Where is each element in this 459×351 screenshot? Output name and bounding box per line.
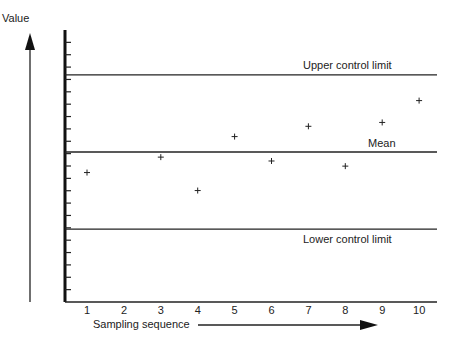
y-axis-label: Value [2,12,29,24]
x-tick-label: 6 [269,304,275,316]
x-axis-label: Sampling sequence [93,318,190,330]
x-tick-label: 4 [195,304,201,316]
mean-label: Mean [368,137,396,149]
control-chart [0,0,459,351]
x-tick-label: 3 [158,304,164,316]
x-arrow-head-icon [360,320,378,330]
lcl-label: Lower control limit [303,233,392,245]
value-arrow-head-icon [25,33,35,50]
x-tick-label: 1 [84,304,90,316]
x-tick-label: 8 [342,304,348,316]
ucl-label: Upper control limit [303,59,392,71]
x-tick-label: 7 [305,304,311,316]
x-tick-label: 9 [379,304,385,316]
x-tick-label: 2 [121,304,127,316]
x-tick-label: 5 [232,304,238,316]
x-tick-label: 10 [413,304,425,316]
